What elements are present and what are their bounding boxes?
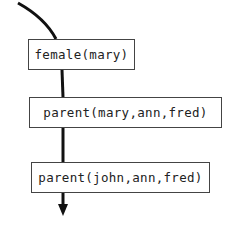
goal-label: parent(john,ann,fred) [38, 170, 202, 185]
connector-1-2 [62, 70, 63, 97]
goal-label: female(mary) [35, 47, 129, 62]
goal-box-parent-john: parent(john,ann,fred) [31, 162, 210, 193]
goal-box-female-mary: female(mary) [28, 39, 135, 70]
goal-box-parent-mary: parent(mary,ann,fred) [29, 97, 222, 128]
diagram-canvas: female(mary) parent(mary,ann,fred) paren… [0, 0, 235, 231]
goal-label: parent(mary,ann,fred) [43, 105, 207, 120]
arrow-down-icon [58, 204, 68, 216]
incoming-curve [18, 3, 56, 39]
